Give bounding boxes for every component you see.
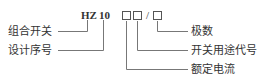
label-design-number: 设计序号 — [8, 45, 52, 57]
label-switch-type: 组合开关 — [8, 26, 52, 38]
purpose-code-box — [133, 11, 142, 20]
rated-current-box — [122, 11, 131, 20]
label-poles: 极数 — [191, 26, 213, 38]
poles-box — [153, 11, 162, 20]
label-purpose-code: 开关用途代号 — [191, 45, 257, 57]
model-prefix: HZ — [81, 9, 97, 21]
label-rated-current: 额定电流 — [191, 64, 235, 76]
model-series: 10 — [99, 9, 110, 21]
separator-slash: / — [146, 9, 149, 21]
